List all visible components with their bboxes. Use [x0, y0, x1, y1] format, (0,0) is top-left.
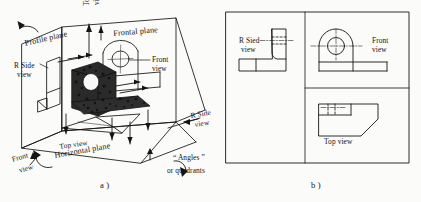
label-angles-line1: “ Angles ” [173, 154, 205, 162]
label-ortho-front-line2: view [372, 46, 387, 54]
figure-root: Profile plane Frontal plane Horizontal p… [0, 0, 421, 202]
label-ortho-top-view: Top view [324, 138, 352, 146]
label-angles-line2: or quadrants [167, 167, 205, 175]
orthographic-dividers [305, 12, 409, 163]
label-top-view-upper-line1: Top [83, 0, 91, 6]
label-top-view-upper-line2: view [93, 0, 101, 5]
caption-a: a ) [100, 181, 109, 190]
orthographic-views-diagram [215, 0, 421, 202]
label-ortho-front-line1: Front [372, 37, 389, 45]
rside-view-on-profile-plane [38, 57, 60, 112]
label-rside-view-left-line1: R Side [14, 62, 35, 70]
label-ortho-rside-line1: R Sied [239, 37, 260, 45]
label-front-view-right-line1: Front [152, 56, 169, 64]
label-front-view-right-line2: view [152, 65, 167, 73]
orthographic-frame [226, 12, 409, 163]
top-view-drawing [319, 104, 378, 136]
label-ortho-rside-line2: view [241, 46, 256, 54]
caption-b: b ) [311, 181, 321, 190]
quadrant-extension-lines [141, 18, 205, 163]
label-rside-view-left-line2: view [17, 71, 32, 79]
